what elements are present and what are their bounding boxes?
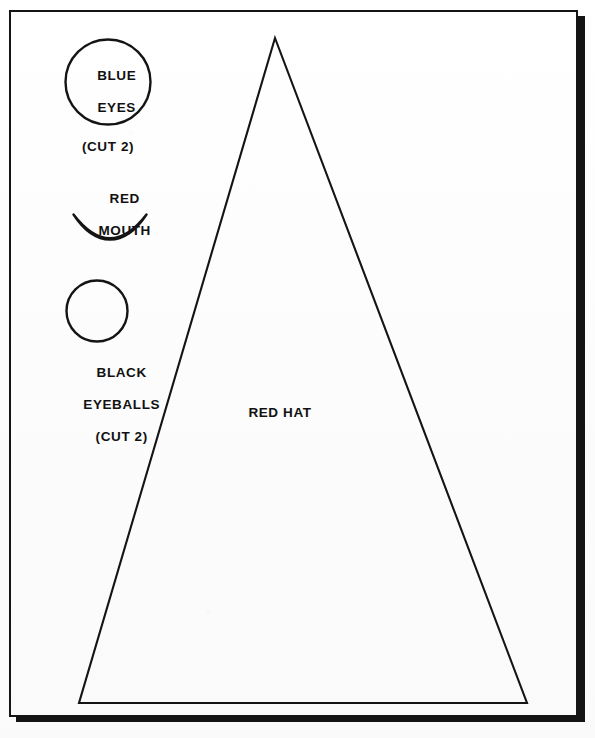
blue-eyes-label-line2: EYES xyxy=(97,100,135,115)
red-mouth-crescent-shape xyxy=(69,209,155,253)
red-hat-label: RED HAT xyxy=(225,405,335,421)
black-eyeballs-label-line2: EYEBALLS xyxy=(83,397,160,412)
black-eyeballs-label: BLACK EYEBALLS (CUT 2) xyxy=(48,349,178,461)
black-eyeballs-outline xyxy=(67,281,128,342)
pattern-page: BLUE EYES (CUT 2) RED MOUTH BLACK EYEBAL… xyxy=(0,0,595,738)
black-eyeballs-label-line1: BLACK xyxy=(97,365,147,380)
blue-eyes-label: BLUE EYES (CUT 2) xyxy=(65,52,151,187)
blue-eyes-cut-note: (CUT 2) xyxy=(65,139,151,155)
red-mouth-label-line1: RED xyxy=(110,191,140,206)
black-eyeballs-circle-shape xyxy=(63,277,131,345)
black-eyeballs-cut-note: (CUT 2) xyxy=(96,429,148,444)
blue-eyes-label-line1: BLUE xyxy=(97,68,136,83)
red-mouth-outline xyxy=(74,215,147,240)
